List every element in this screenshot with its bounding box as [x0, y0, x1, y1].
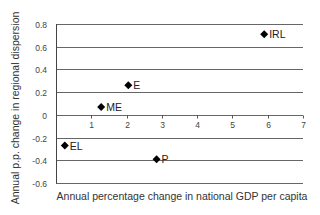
diamond-marker-icon [124, 81, 132, 89]
point-label: E [133, 79, 140, 91]
x-tick-label: 4 [195, 120, 200, 130]
x-tick-label: 7 [301, 120, 306, 130]
diamond-marker-icon [61, 142, 69, 150]
y-tick-label: 0.4 [35, 65, 47, 75]
horizontal-gridlines [56, 25, 303, 184]
point-label: EL [70, 140, 83, 152]
y-axis-label: Annual p.p. change in regional dispersio… [9, 12, 21, 205]
diamond-marker-icon [97, 103, 105, 111]
data-point-el: EL [61, 140, 83, 152]
y-tick-label: -0.2 [32, 134, 47, 144]
x-tick-label: 6 [266, 120, 271, 130]
data-point-e: E [124, 79, 140, 91]
data-point-p: P [153, 153, 169, 165]
x-tick-label: 3 [160, 120, 165, 130]
data-point-irl: IRL [260, 28, 286, 40]
point-label: IRL [269, 28, 286, 40]
point-label: P [162, 153, 169, 165]
data-points: IRLEMEELP [61, 28, 286, 165]
diamond-marker-icon [153, 155, 161, 163]
y-tick-label: 0.8 [35, 20, 47, 30]
x-tick-label: 5 [230, 120, 235, 130]
y-tick-label: -0.4 [32, 156, 47, 166]
x-axis-label: Annual percentage change in national GDP… [57, 190, 308, 202]
diamond-marker-icon [260, 30, 268, 38]
y-tick-label: 0 [42, 111, 47, 121]
data-point-me: ME [97, 101, 122, 113]
x-tick-label: 2 [125, 120, 130, 130]
x-tick-label: 1 [89, 120, 94, 130]
x-axis: 1234567 [89, 116, 306, 130]
scatter-chart: 0.80.60.40.20-0.2-0.4-0.6 1234567 IRLEME… [0, 0, 320, 215]
point-label: ME [106, 101, 122, 113]
y-tick-label: 0.6 [35, 43, 47, 53]
y-tick-label: -0.6 [32, 179, 47, 189]
y-axis: 0.80.60.40.20-0.2-0.4-0.6 [32, 20, 56, 189]
y-tick-label: 0.2 [35, 88, 47, 98]
